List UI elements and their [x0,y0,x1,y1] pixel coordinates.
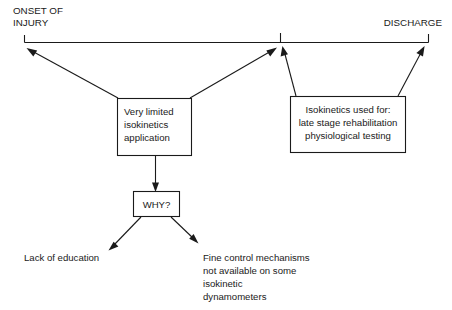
box-isokinetics-used-for[interactable]: Isokinetics used for: late stage rehabil… [291,97,406,153]
timeline-start-label-line1: ONSET OF [13,5,63,16]
flow-diagram: ONSET OF INJURY DISCHARGE Very limited [0,0,452,310]
box-very-limited-line-1: Very limited [124,106,174,117]
box-very-limited[interactable]: Very limited isokinetics application [118,99,192,156]
box-isokinetics-used-for-line-1: Isokinetics used for: [306,104,391,115]
arrow-why-to-lack-of-education [109,217,142,251]
arrow-isokinetics-to-discharge [398,46,425,96]
box-why[interactable]: WHY? [134,192,180,217]
box-isokinetics-used-for-line-3: physiological testing [305,130,391,141]
box-very-limited-line-3: application [124,132,170,143]
box-why-label: WHY? [143,199,171,210]
leaf-label-fine-control-line-3: isokinetic [203,278,243,289]
timeline-group [25,33,429,43]
timeline-start-label-line2: INJURY [13,17,49,28]
arrow-why-to-fine-control [171,217,199,244]
box-isokinetics-used-for-line-2: late stage rehabilitation [299,117,398,128]
leaf-label-fine-control-line-4: dynamometers [203,291,267,302]
arrow-verylimited-to-midpoint [190,48,277,98]
leaf-label-lack-of-education: Lack of education [24,252,99,263]
arrow-verylimited-to-why [152,156,159,193]
box-very-limited-line-2: isokinetics [124,119,168,130]
arrow-isokinetics-to-midpoint [281,46,296,96]
leaf-label-fine-control: Fine control mechanisms not available on… [203,252,310,302]
diagram-canvas: ONSET OF INJURY DISCHARGE Very limited [0,0,452,310]
leaf-label-fine-control-line-1: Fine control mechanisms [203,252,310,263]
leaf-label-fine-control-line-2: not available on some [203,265,296,276]
arrow-verylimited-to-onset [27,48,119,98]
timeline-end-label: DISCHARGE [384,17,443,28]
